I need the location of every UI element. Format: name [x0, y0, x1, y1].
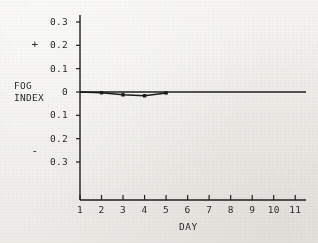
y-tick-label: 0.1	[42, 64, 68, 74]
x-tick-label: 3	[116, 205, 130, 215]
x-axis-ticks	[80, 195, 295, 200]
y-axis-title-line-2: INDEX	[14, 92, 44, 104]
x-tick-label: 4	[138, 205, 152, 215]
y-tick-label: 0.3	[42, 157, 68, 167]
y-axis-title: FOG INDEX	[14, 80, 44, 103]
y-tick-label: 0.1	[42, 110, 68, 120]
x-tick-label: 7	[202, 205, 216, 215]
data-point-marker	[121, 93, 124, 96]
chart-canvas: 0.30.20.100.10.20.3 1234567891011 + - FO…	[0, 0, 318, 243]
y-tick-label: 0.2	[42, 134, 68, 144]
x-tick-label: 10	[267, 205, 281, 215]
negative-sign-label: -	[30, 146, 40, 156]
x-tick-label: 6	[181, 205, 195, 215]
x-tick-label: 9	[245, 205, 259, 215]
x-tick-label: 8	[224, 205, 238, 215]
data-point-marker	[100, 91, 103, 94]
x-tick-label: 11	[288, 205, 302, 215]
x-axis-title: DAY	[179, 222, 198, 232]
positive-sign-label: +	[30, 40, 40, 50]
x-tick-label: 2	[95, 205, 109, 215]
x-tick-label: 1	[73, 205, 87, 215]
x-tick-label: 5	[159, 205, 173, 215]
data-point-marker	[143, 94, 146, 97]
y-tick-label: 0.3	[42, 17, 68, 27]
y-tick-label: 0	[42, 87, 68, 97]
y-tick-label: 0.2	[42, 40, 68, 50]
y-axis-title-line-1: FOG	[14, 80, 44, 92]
data-point-marker	[164, 91, 167, 94]
